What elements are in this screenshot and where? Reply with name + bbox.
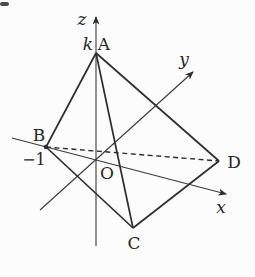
z-axis-label: z (77, 9, 88, 29)
geometry-figure: z y x k −1 A B C D O (0, 0, 255, 277)
origin-label: O (100, 163, 114, 183)
point-b-label: B (33, 125, 46, 145)
x-axis-label: x (216, 197, 226, 217)
y-axis (40, 72, 193, 210)
point-a-label: A (97, 34, 111, 54)
scan-artifact-mark (0, 2, 9, 6)
edge-bc (46, 147, 133, 228)
point-c-label: C (127, 233, 140, 253)
y-axis-label: y (178, 49, 189, 69)
k-tick-label: k (83, 34, 93, 54)
tetrahedron-axes-svg: z y x k −1 A B C D O (0, 0, 255, 277)
minus1-tick-label: −1 (22, 150, 46, 169)
point-d-label: D (227, 152, 241, 172)
edge-ac (96, 53, 133, 228)
vertex-b-dot (44, 145, 49, 150)
edge-ad (96, 53, 219, 161)
edge-cd (133, 161, 219, 228)
edge-ab (46, 53, 96, 147)
